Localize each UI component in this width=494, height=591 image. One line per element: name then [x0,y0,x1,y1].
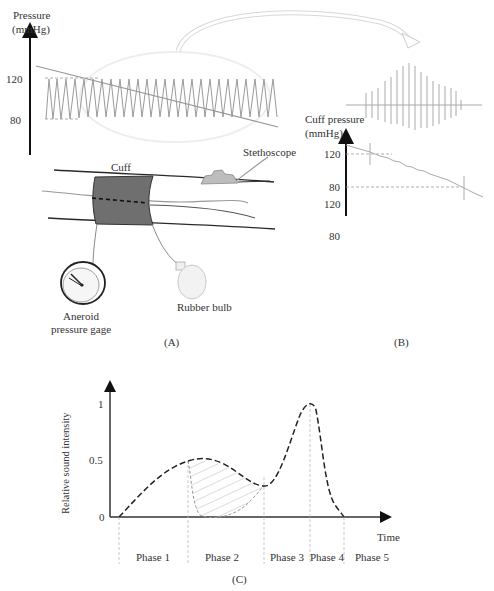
c-x-axis-label: Time [377,531,400,543]
stethoscope [201,157,270,184]
panel-b-oscillogram [346,63,482,130]
c-y-axis-label: Relative sound intensity [60,413,72,515]
bulb-label: Rubber bulb [177,301,232,313]
cuff-pressure-axis-label: Cuff pressure [305,113,364,125]
pressure-tick-120: 120 [6,73,23,85]
pressure-tick-80: 80 [10,114,21,126]
caption-a: (A) [164,336,179,348]
cuff-tick-80: 80 [329,181,340,193]
c-y-tick-0-5: 0.5 [89,454,103,466]
cuff-tick-80-repeat: 80 [329,230,340,242]
phase-4-label: Phase 4 [310,551,344,563]
cuff-label: Cuff [111,161,131,173]
cuff-tick-120: 120 [324,148,341,160]
pressure-axis-label: Pressure [13,9,50,21]
figure-canvas [0,0,494,591]
c-y-tick-1: 1 [98,398,104,410]
gauge-label-line2: pressure gage [40,323,122,335]
cuff-pressure-axis-unit: (mmHg) [305,127,343,139]
caption-b: (B) [394,336,409,348]
stethoscope-label: Stethoscope [243,146,296,158]
caption-c: (C) [232,573,247,585]
transition-arrow [178,13,420,51]
gauge-label-line1: Aneroid [46,310,116,322]
phase-1-label: Phase 1 [136,551,170,563]
panel-a-pressure-chart [30,30,278,155]
phase-2-label: Phase 2 [205,551,239,563]
phase-5-label: Phase 5 [355,551,389,563]
hatched-gap-region [188,461,264,518]
aneroid-gauge [61,262,105,304]
cuff-pressure-line [36,66,278,127]
rubber-bulb [176,262,206,299]
panel-b-cuff-chart [346,136,483,216]
arm-illustration [42,157,275,304]
phase-3-label: Phase 3 [270,551,304,563]
c-y-tick-0: 0 [99,511,105,523]
pressure-axis-unit: (mmHg) [12,23,50,35]
panel-c-chart [110,386,386,564]
cuff-tick-120-repeat: 120 [324,198,341,210]
